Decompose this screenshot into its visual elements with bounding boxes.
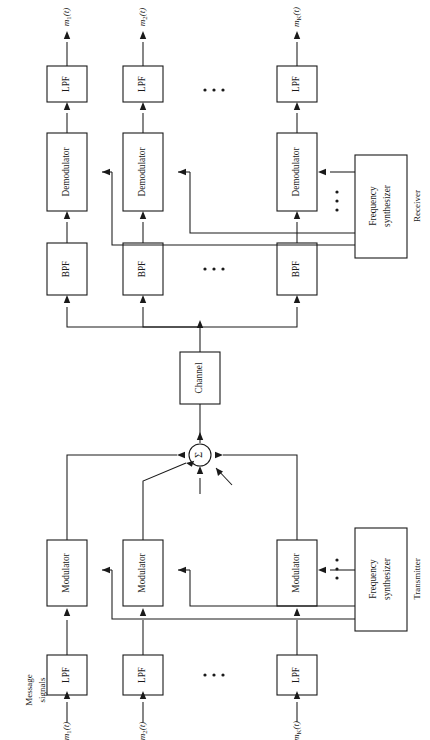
svg-text:m1(t): m1(t) <box>61 8 71 27</box>
input-lpf-label-2: LPF <box>137 667 147 683</box>
output-signal-label-1: m1(t) <box>61 8 71 27</box>
bpf-label-2: BPF <box>137 261 147 278</box>
transmitter-frequency-synthesizer: Frequency synthesizer <box>355 528 407 631</box>
modulator-label-2: Modulator <box>137 552 147 592</box>
svg-text:m2(t): m2(t) <box>137 8 147 27</box>
output-lpf-row-ellipsis <box>203 88 224 91</box>
receiver-freq-synth-block[interactable] <box>355 155 407 258</box>
modulator-to-summer-links <box>67 452 297 540</box>
receiver-synth-ellipsis <box>335 190 338 211</box>
bpf-to-demod-links <box>64 211 300 243</box>
channel-section: Channel <box>180 352 220 443</box>
output-signal-label-3: mK(t) <box>291 7 301 27</box>
out-sig-arg-2: (t) <box>137 8 147 17</box>
svg-text:mK(t): mK(t) <box>291 7 301 27</box>
message-signals-line2: signals <box>37 677 47 702</box>
receiver-frequency-synthesizer: Frequency synthesizer <box>355 155 407 258</box>
output-lpf-label-3: LPF <box>291 76 301 92</box>
bpf-chain-3: BPF <box>277 243 317 295</box>
demodulator-label-1: Demodulator <box>61 147 71 197</box>
modulator-chain-2: Modulator <box>123 540 163 606</box>
bpf-row-ellipsis <box>203 267 224 270</box>
output-signal-label-2: m2(t) <box>137 8 147 27</box>
transmitter-freq-synth-label-line1: Frequency <box>368 559 378 599</box>
message-signals-annotation: Message signals <box>24 674 47 706</box>
demod-chain-1: Demodulator <box>47 133 87 211</box>
modulator-chain-3: Modulator <box>277 540 317 606</box>
input-signal-arrows <box>64 691 300 722</box>
modulator-label-3: Modulator <box>291 552 301 592</box>
input-lpf-label-1: LPF <box>61 667 71 683</box>
message-signals-line1: Message <box>24 674 34 706</box>
svg-text:m2(t): m2(t) <box>137 722 147 740</box>
output-signal-arrows <box>64 31 300 66</box>
in-sig-arg-2: (t) <box>137 722 147 731</box>
demodulator-label-2: Demodulator <box>137 147 147 197</box>
demodulator-label-3: Demodulator <box>291 147 301 197</box>
bpf-label-3: BPF <box>291 261 301 278</box>
receiver-section-label: Receiver <box>412 190 422 222</box>
input-lpf-chain-1: LPF <box>47 655 87 695</box>
demod-to-lpf-links <box>64 102 300 133</box>
input-lpf-to-modulator-links <box>64 608 300 655</box>
bpf-chain-2: BPF <box>123 243 163 295</box>
output-lpf-label-2: LPF <box>137 76 147 92</box>
channel-label: Channel <box>194 362 204 393</box>
summer-node-group: Σ <box>189 432 211 466</box>
transmitter-synth-ellipsis <box>335 558 338 579</box>
modulator-chain-1: Modulator <box>47 540 87 606</box>
out-lpf-chain-1: LPF <box>47 66 87 102</box>
in-sig-arg-1: (t) <box>61 722 71 731</box>
svg-text:m1(t): m1(t) <box>61 722 71 740</box>
input-lpf-chain-2: LPF <box>123 655 163 695</box>
fdm-block-diagram: BPF BPF BPF Demodulator Demodulator Demo… <box>0 0 430 740</box>
out-lpf-chain-3: LPF <box>277 66 317 102</box>
input-lpf-row-ellipsis <box>203 673 224 676</box>
input-signal-label-2: m2(t) <box>137 722 147 740</box>
output-lpf-label-1: LPF <box>61 76 71 92</box>
summer-label: Σ <box>193 452 204 458</box>
svg-text:mK(t): mK(t) <box>291 721 301 740</box>
transmitter-section-label: Transmitter <box>412 558 422 600</box>
input-signal-label-3: mK(t) <box>291 721 301 740</box>
transmitter-freq-synth-block[interactable] <box>355 528 407 631</box>
receiver-input-bus <box>64 295 300 352</box>
demod-chain-2: Demodulator <box>123 133 163 211</box>
input-lpf-label-3: LPF <box>291 667 301 683</box>
out-lpf-chain-2: LPF <box>123 66 163 102</box>
out-sig-arg-1: (t) <box>61 8 71 17</box>
out-sig-arg-3: (t) <box>291 7 301 16</box>
bpf-label-1: BPF <box>61 261 71 278</box>
receiver-freq-synth-label-line1: Frequency <box>368 186 378 226</box>
input-lpf-chain-3: LPF <box>277 655 317 695</box>
receiver-freq-synth-label-line2: synthesizer <box>382 184 392 227</box>
demod-chain-3: Demodulator <box>277 133 317 211</box>
in-sig-arg-3: (t) <box>291 721 301 730</box>
modulator-label-1: Modulator <box>61 552 71 592</box>
bpf-chain-1: BPF <box>47 243 87 295</box>
input-signal-label-1: m1(t) <box>61 722 71 740</box>
transmitter-freq-synth-label-line2: synthesizer <box>382 557 392 600</box>
